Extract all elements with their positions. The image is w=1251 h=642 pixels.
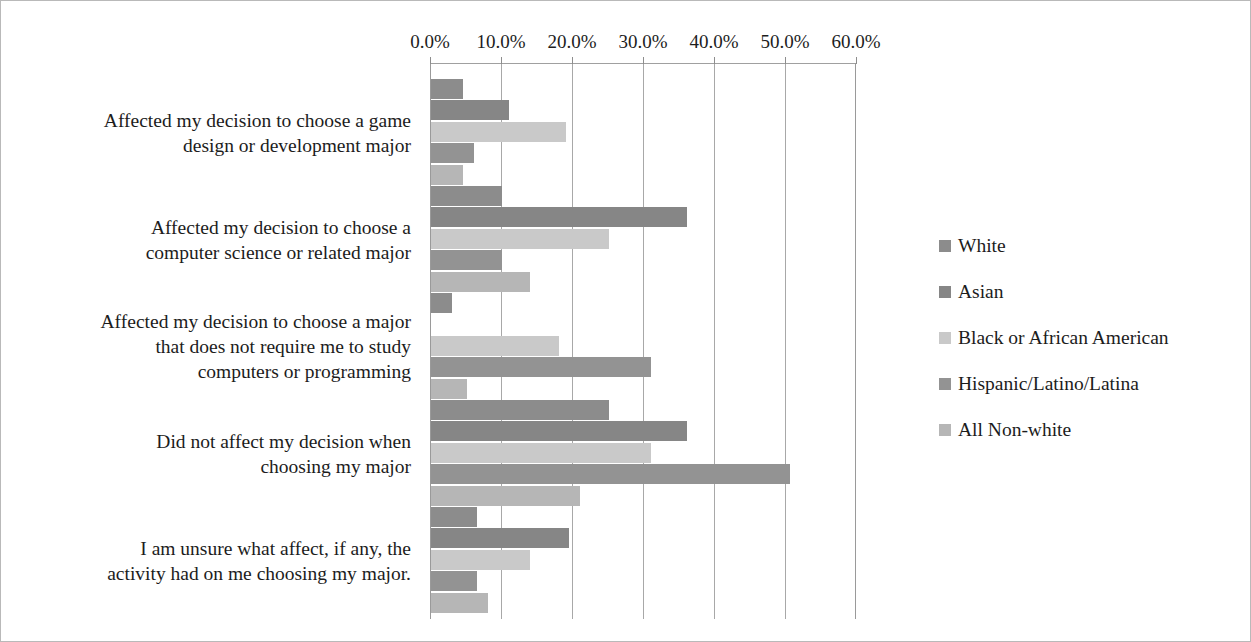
bar [431, 293, 452, 313]
bar [431, 443, 651, 463]
bar [431, 421, 687, 441]
bar [431, 336, 559, 356]
x-tick-label: 0.0% [410, 30, 450, 54]
legend-label: Hispanic/Latino/Latina [958, 372, 1139, 396]
x-tick-label: 30.0% [618, 30, 667, 54]
legend-swatch-icon [939, 424, 951, 436]
bar [431, 571, 477, 591]
bar [431, 165, 463, 185]
category-label: Affected my decision to choose a major t… [19, 309, 411, 384]
legend-swatch-icon [939, 240, 951, 252]
legend-swatch-icon [939, 378, 951, 390]
x-tick-label: 60.0% [831, 30, 880, 54]
x-tick-label: 20.0% [547, 30, 596, 54]
bar-group [431, 507, 856, 614]
bar [431, 528, 569, 548]
legend-label: White [958, 234, 1006, 258]
legend-item[interactable]: Asian [939, 269, 1239, 315]
legend: WhiteAsianBlack or African AmericanHispa… [939, 223, 1239, 453]
bar [431, 272, 530, 292]
bar [431, 550, 530, 570]
x-tick-mark [572, 57, 573, 64]
bar [431, 186, 502, 206]
bar [431, 357, 651, 377]
bar [431, 379, 467, 399]
bar [431, 507, 477, 527]
bar-group [431, 293, 856, 400]
x-tick-mark [785, 57, 786, 64]
bar [431, 464, 790, 484]
bar [431, 100, 509, 120]
legend-label: Asian [958, 280, 1004, 304]
x-tick-label: 50.0% [760, 30, 809, 54]
category-label: I am unsure what affect, if any, the act… [19, 536, 411, 586]
x-tick-label: 10.0% [476, 30, 525, 54]
bar [431, 486, 580, 506]
bar [431, 207, 687, 227]
x-axis-labels: 0.0%10.0%20.0%30.0%40.0%50.0%60.0% [1, 30, 1251, 56]
x-tick-label: 40.0% [689, 30, 738, 54]
category-label: Did not affect my decision when choosing… [19, 429, 411, 479]
bar [431, 400, 609, 420]
legend-item[interactable]: White [939, 223, 1239, 269]
legend-label: Black or African American [958, 326, 1169, 350]
x-tick-mark [643, 57, 644, 64]
legend-item[interactable]: Hispanic/Latino/Latina [939, 361, 1239, 407]
bar-group [431, 79, 856, 186]
bar [431, 593, 488, 613]
x-tick-mark [430, 57, 431, 64]
category-label: Affected my decision to choose a game de… [19, 108, 411, 158]
bar [431, 250, 502, 270]
x-tick-mark [714, 57, 715, 64]
x-tick-mark [856, 57, 857, 64]
bar [431, 122, 566, 142]
legend-item[interactable]: All Non-white [939, 407, 1239, 453]
category-label: Affected my decision to choose a compute… [19, 215, 411, 265]
legend-swatch-icon [939, 332, 951, 344]
x-tick-mark [501, 57, 502, 64]
chart-container: 0.0%10.0%20.0%30.0%40.0%50.0%60.0% Affec… [0, 0, 1251, 642]
legend-swatch-icon [939, 286, 951, 298]
plot-area [430, 63, 856, 619]
bar-group [431, 186, 856, 293]
legend-label: All Non-white [958, 418, 1071, 442]
bar-group [431, 400, 856, 507]
legend-item[interactable]: Black or African American [939, 315, 1239, 361]
bar [431, 79, 463, 99]
bar [431, 143, 474, 163]
bar [431, 229, 609, 249]
